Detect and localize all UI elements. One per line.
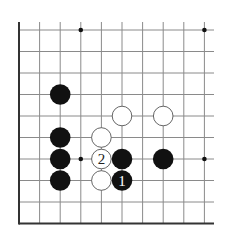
white-stone: 2: [92, 149, 112, 169]
black-stone-icon: [50, 84, 71, 105]
white-stone-icon: [112, 106, 132, 126]
black-stone: [112, 149, 133, 170]
black-stone: [50, 170, 71, 191]
star-point-icon: [202, 28, 207, 33]
black-stone-icon: [50, 127, 71, 148]
white-stone-icon: [92, 171, 112, 191]
black-stone: [50, 149, 71, 170]
go-board: 12: [0, 0, 231, 238]
white-stone-icon: [92, 128, 112, 148]
star-point-icon: [79, 157, 84, 162]
white-stone: [153, 106, 173, 126]
white-stone: [92, 128, 112, 148]
black-stone: 1: [112, 170, 133, 191]
black-stone-icon: [50, 170, 71, 191]
black-stone: [50, 127, 71, 148]
move-number-label: 2: [98, 151, 106, 167]
black-stone-icon: [112, 149, 133, 170]
white-stone: [92, 171, 112, 191]
black-stone-icon: [153, 149, 174, 170]
black-stone-icon: [50, 149, 71, 170]
white-stone-icon: [153, 106, 173, 126]
star-point-icon: [79, 28, 84, 33]
move-number-label: 1: [118, 173, 126, 189]
star-point-icon: [202, 157, 207, 162]
black-stone: [153, 149, 174, 170]
white-stone: [112, 106, 132, 126]
black-stone: [50, 84, 71, 105]
